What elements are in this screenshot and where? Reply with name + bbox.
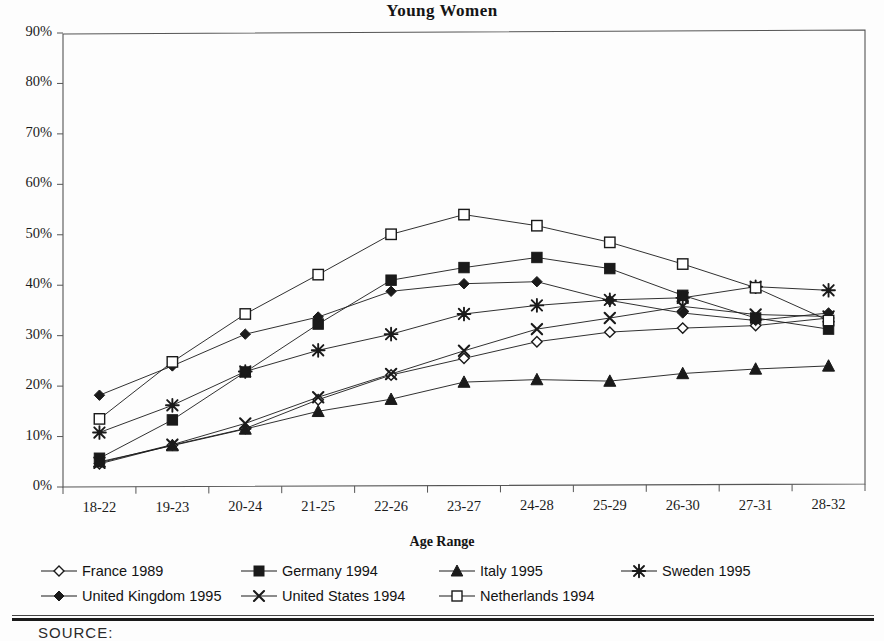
x-axis-tick-label: 19-23 [132,499,212,516]
x-axis-tick-label: 26-30 [643,497,723,514]
marker-open-diamond [532,337,542,347]
legend-marker-open-diamond [40,563,78,579]
marker-filled-diamond [532,276,542,286]
y-axis-tick-label: 20% [0,376,52,393]
marker-filled-diamond [386,286,396,296]
legend-label: France 1989 [82,564,163,579]
y-axis-tick-label: 40% [0,275,52,292]
marker-open-diamond [605,327,615,337]
x-axis-tick-label: 18-22 [59,499,139,516]
marker-open-square [605,237,615,247]
legend-item-france-1989[interactable]: France 1989 [40,559,163,583]
legend-row: United Kingdom 1995United States 1994Net… [30,584,866,608]
plot-canvas [0,0,884,560]
legend-marker-filled-diamond [40,588,78,604]
marker-asterisk [312,344,325,357]
legend-label: United States 1994 [282,589,405,604]
series-italy-1995 [93,360,834,467]
y-axis-tick-label: 0% [0,477,52,494]
x-axis-tick-label: 21-25 [278,498,358,515]
legend-label: Germany 1994 [282,564,378,579]
y-axis-tick-label: 30% [0,326,52,343]
marker-open-square [167,357,177,367]
marker-open-square [823,315,833,325]
legend-marker-filled-triangle [438,563,476,579]
marker-open-square [386,229,396,239]
legend-label: Sweden 1995 [662,564,751,579]
x-axis-tick-label: 27-31 [716,497,796,514]
legend-marker-open-square [438,588,476,604]
marker-asterisk [633,565,645,577]
marker-open-square [452,591,462,601]
legend-item-netherlands-1994[interactable]: Netherlands 1994 [438,584,594,608]
marker-filled-square [386,275,396,285]
marker-open-square [532,220,542,230]
series-france-1989 [94,313,833,469]
y-axis-tick-label: 80% [0,73,52,90]
marker-open-square [678,259,688,269]
marker-open-diamond [54,566,64,576]
marker-filled-triangle [823,360,835,371]
legend-item-united-kingdom-1995[interactable]: United Kingdom 1995 [40,584,221,608]
legend-label: United Kingdom 1995 [82,589,221,604]
marker-open-diamond [678,323,688,333]
y-axis-tick-label: 50% [0,225,52,242]
x-axis-tick-label: 28-32 [789,496,869,513]
marker-asterisk [239,365,252,378]
marker-filled-square [459,262,469,272]
legend-marker-asterisk [620,563,658,579]
marker-asterisk [531,299,544,312]
x-axis-tick-label: 23-27 [424,498,504,515]
legend-row: France 1989Germany 1994Italy 1995Sweden … [30,559,866,583]
x-axis-title: Age Range [0,534,884,550]
legend-item-united-states-1994[interactable]: United States 1994 [240,584,405,608]
series-line [100,318,829,464]
plot-frame [63,30,865,487]
legend-label: Italy 1995 [480,564,543,579]
x-axis-tick-label: 25-29 [570,497,650,514]
chart-legend: France 1989Germany 1994Italy 1995Sweden … [30,559,866,609]
marker-filled-square [254,566,264,576]
legend-marker-filled-square [240,563,278,579]
marker-asterisk [93,426,106,439]
y-axis-tick-label: 10% [0,427,52,444]
marker-open-square [240,309,250,319]
legend-marker-cross-x [240,588,278,604]
marker-asterisk [166,399,179,412]
marker-filled-diamond [94,390,104,400]
marker-filled-square [605,263,615,273]
legend-label: Netherlands 1994 [480,589,594,604]
marker-cross-x [605,313,615,323]
footer-divider [12,618,874,621]
chart-page: Young Women 90%80%70%60%50%40%30%20%10%0… [0,0,884,641]
marker-asterisk [822,284,835,297]
y-axis-tick-label: 60% [0,174,52,191]
marker-filled-diamond [54,591,64,601]
marker-open-square [750,283,760,293]
marker-cross-x [532,324,542,334]
footer-divider-thin [12,615,874,616]
chart-figure: Young Women 90%80%70%60%50%40%30%20%10%0… [0,0,884,560]
legend-item-sweden-1995[interactable]: Sweden 1995 [620,559,751,583]
marker-filled-diamond [240,329,250,339]
marker-asterisk [458,308,471,321]
legend-item-germany-1994[interactable]: Germany 1994 [240,559,378,583]
marker-filled-diamond [459,279,469,289]
x-axis-tick-label: 24-28 [497,497,577,514]
marker-filled-square [532,252,542,262]
marker-filled-triangle [531,373,543,384]
source-note: SOURCE: [38,624,113,641]
marker-filled-triangle [385,393,397,404]
marker-open-square [313,269,323,279]
marker-filled-square [167,415,177,425]
x-axis-tick-label: 20-24 [205,498,285,515]
marker-open-square [94,414,104,424]
legend-item-italy-1995[interactable]: Italy 1995 [438,559,543,583]
marker-asterisk [385,328,398,341]
x-axis-tick-label: 22-26 [351,498,431,515]
y-axis-tick-label: 70% [0,124,52,141]
marker-open-square [459,209,469,219]
y-axis-tick-label: 90% [0,23,52,40]
